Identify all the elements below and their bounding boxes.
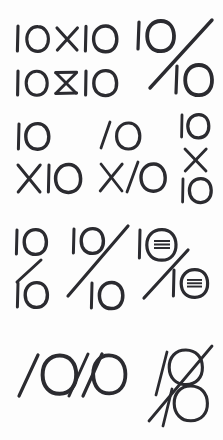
sketch-row1-10x10-plain xyxy=(14,18,118,58)
sketch-row4-compact-stacked xyxy=(146,345,218,433)
zero-inner-mark-upper xyxy=(154,240,170,249)
sketch-row3-fraction-short-slash xyxy=(14,228,66,310)
sketch-row1-percent-1010 xyxy=(133,16,217,104)
page-title: Handwritten 10x10 and 10/10 lockup sketc… xyxy=(0,0,1,1)
sketch-row3-percent-marked-zeros xyxy=(134,228,216,304)
sketch-row1-10x10-bowtie xyxy=(14,62,118,102)
sketch-sheet: Handwritten 10x10 and 10/10 lockup sketc… xyxy=(0,0,223,440)
sketch-row3-fraction-long-slash xyxy=(70,226,132,312)
sketch-row2-stacked-slash-ones xyxy=(100,120,172,198)
sketch-row2-stacked-10-x10 xyxy=(16,120,88,198)
zero-inner-mark-lower xyxy=(187,279,202,288)
sketch-row2-stacked-10-x-10 xyxy=(179,113,221,205)
sketch-row4-inline-1010 xyxy=(16,352,128,404)
